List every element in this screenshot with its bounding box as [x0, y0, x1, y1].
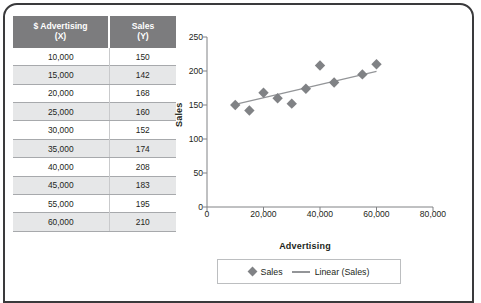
cell-advertising: 60,000 — [13, 213, 109, 231]
table-row: 10,000 150 — [13, 48, 176, 66]
data-point-marker — [357, 69, 367, 79]
table-row: 40,000 208 — [13, 158, 176, 176]
table-row: 35,000 174 — [13, 139, 176, 157]
figure-frame: $ Advertising (X) Sales (Y) 10,000 150 1… — [3, 3, 474, 303]
cell-advertising: 20,000 — [13, 84, 109, 102]
legend-label: Sales — [261, 267, 283, 277]
table-header-row: $ Advertising (X) Sales (Y) — [13, 16, 176, 48]
cell-sales: 174 — [109, 139, 176, 157]
cell-advertising: 30,000 — [13, 121, 109, 139]
legend-line-icon — [292, 271, 310, 273]
data-point-marker — [230, 100, 240, 110]
data-point-marker — [272, 93, 282, 103]
data-point-marker — [329, 77, 339, 87]
table-row: 15,000 142 — [13, 66, 176, 84]
x-axis-title: Advertising — [177, 241, 433, 251]
data-point-marker — [244, 105, 254, 115]
plot-area — [207, 37, 433, 207]
column-header-advertising-main: $ Advertising — [33, 21, 87, 31]
column-header-sales: Sales (Y) — [109, 16, 176, 48]
column-header-advertising: $ Advertising (X) — [13, 16, 109, 48]
cell-advertising: 25,000 — [13, 103, 109, 121]
cell-advertising: 40,000 — [13, 158, 109, 176]
cell-sales: 150 — [109, 48, 176, 66]
scatter-chart: Sales Advertising 050100150200250 020,00… — [177, 19, 477, 294]
data-table-panel: $ Advertising (X) Sales (Y) 10,000 150 1… — [13, 16, 176, 232]
table-row: 45,000 183 — [13, 176, 176, 194]
table-row: 25,000 160 — [13, 103, 176, 121]
table-row: 30,000 152 — [13, 121, 176, 139]
legend-item: Sales — [249, 267, 283, 277]
cell-advertising: 10,000 — [13, 48, 109, 66]
cell-advertising: 55,000 — [13, 194, 109, 212]
cell-advertising: 35,000 — [13, 139, 109, 157]
cell-sales: 195 — [109, 194, 176, 212]
cell-sales: 152 — [109, 121, 176, 139]
y-tick-label: 100 — [179, 134, 203, 144]
advertising-sales-table: $ Advertising (X) Sales (Y) 10,000 150 1… — [13, 16, 176, 232]
data-point-marker — [315, 60, 325, 70]
legend-diamond-icon — [247, 267, 257, 277]
y-tick-label: 50 — [179, 168, 203, 178]
cell-sales: 142 — [109, 66, 176, 84]
cell-sales: 160 — [109, 103, 176, 121]
table-row: 55,000 195 — [13, 194, 176, 212]
column-header-advertising-sub: (X) — [15, 31, 106, 41]
y-tick-label: 200 — [179, 66, 203, 76]
y-tick-label: 250 — [179, 32, 203, 42]
table-row: 60,000 210 — [13, 213, 176, 231]
cell-sales: 210 — [109, 213, 176, 231]
data-point-marker — [371, 59, 381, 69]
cell-sales: 168 — [109, 84, 176, 102]
column-header-sales-sub: (Y) — [112, 31, 174, 41]
cell-sales: 208 — [109, 158, 176, 176]
cell-sales: 183 — [109, 176, 176, 194]
data-point-marker — [301, 83, 311, 93]
chart-legend: SalesLinear (Sales) — [217, 259, 401, 284]
cell-advertising: 15,000 — [13, 66, 109, 84]
column-header-sales-main: Sales — [132, 21, 154, 31]
y-axis-ticks: 050100150200250 — [179, 19, 203, 219]
legend-label: Linear (Sales) — [315, 267, 370, 277]
y-tick-label: 150 — [179, 100, 203, 110]
cell-advertising: 45,000 — [13, 176, 109, 194]
data-point-marker — [287, 98, 297, 108]
legend-item: Linear (Sales) — [292, 267, 370, 277]
table-row: 20,000 168 — [13, 84, 176, 102]
